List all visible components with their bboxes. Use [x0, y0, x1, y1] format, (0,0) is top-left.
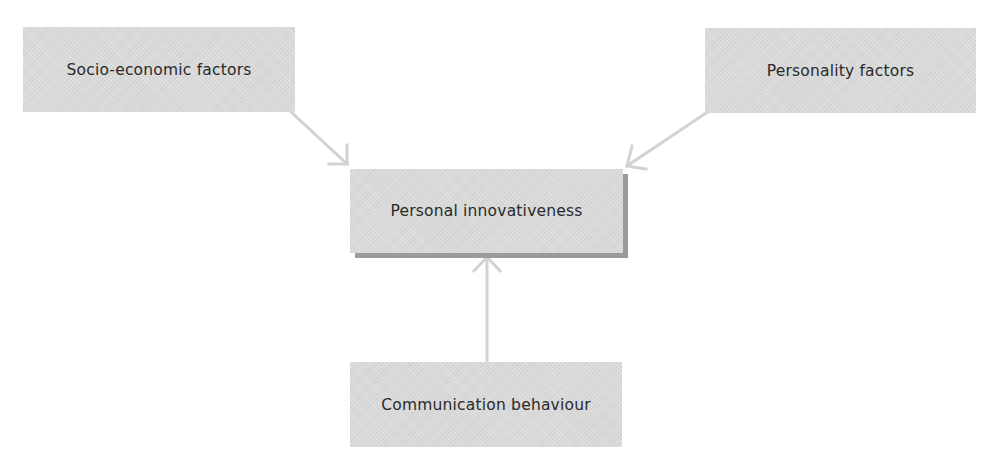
diagram-canvas: Socio-economic factors Personality facto…	[0, 0, 1004, 468]
node-socio-economic-factors: Socio-economic factors	[23, 27, 295, 112]
node-label: Communication behaviour	[381, 396, 591, 414]
node-label: Personal innovativeness	[390, 202, 582, 220]
arrow-socio-to-innovativeness	[290, 111, 347, 164]
node-label: Socio-economic factors	[66, 61, 251, 79]
node-label: Personality factors	[767, 62, 915, 80]
node-personal-innovativeness: Personal innovativeness	[350, 169, 623, 253]
arrow-personality-to-innovativeness	[627, 113, 706, 169]
node-personality-factors: Personality factors	[705, 28, 976, 113]
arrow-communication-to-innovativeness	[474, 257, 500, 361]
node-communication-behaviour: Communication behaviour	[350, 362, 622, 447]
